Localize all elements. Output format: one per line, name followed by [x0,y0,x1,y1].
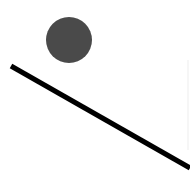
diagram-canvas [0,0,190,195]
diagram-svg [0,0,190,195]
inclined-plane-line [11,66,190,168]
ball-circle [46,17,92,63]
